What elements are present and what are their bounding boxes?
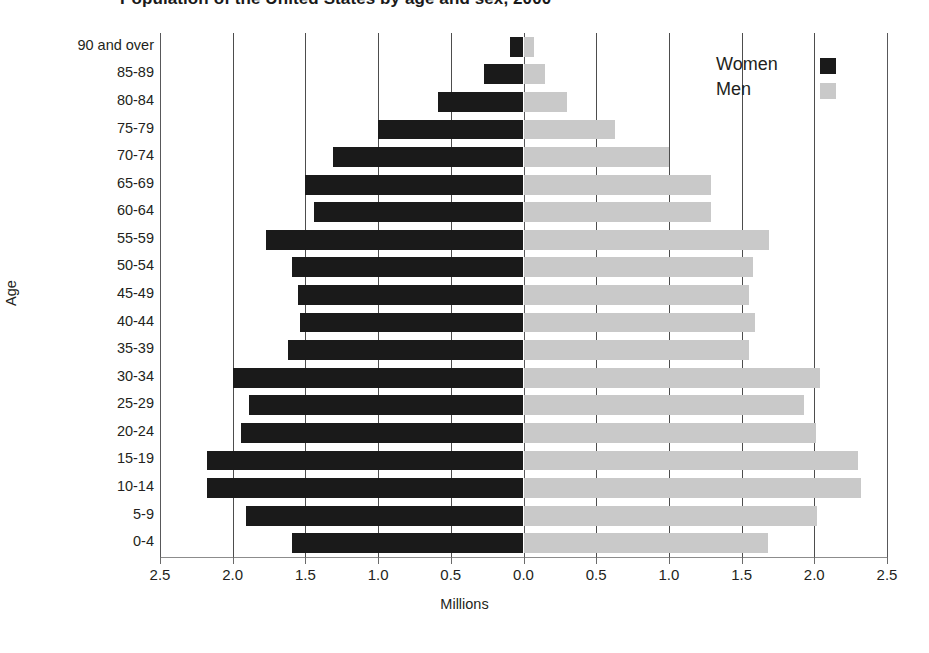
bar-men-50-54 (524, 257, 754, 277)
bar-men-80-84 (524, 92, 568, 112)
y-tick-label-55-59: 55-59 (4, 230, 154, 246)
y-axis-tick-labels: 90 and over85-8980-8475-7970-7465-6960-6… (0, 33, 154, 557)
y-tick-label-20-24: 20-24 (4, 423, 154, 439)
bar-men-10-14 (524, 478, 861, 498)
bar-women-60-64 (314, 202, 523, 222)
x-tick-mark (451, 557, 452, 564)
bar-men-60-64 (524, 202, 712, 222)
legend-item-men: Men (716, 79, 856, 104)
bar-women-45-49 (298, 285, 523, 305)
x-tick-mark (596, 557, 597, 564)
x-tick-mark (887, 557, 888, 564)
x-tick-label: 1.5 (275, 566, 335, 583)
bar-row (160, 285, 887, 305)
bar-row (160, 478, 887, 498)
bar-men-25-29 (524, 395, 805, 415)
bar-women-55-59 (266, 230, 523, 250)
legend-swatch-men (820, 83, 836, 99)
bar-women-50-54 (292, 257, 523, 277)
bar-men-65-69 (524, 175, 712, 195)
y-tick-label-0-4: 0-4 (4, 533, 154, 549)
bar-row (160, 395, 887, 415)
bar-women-20-24 (241, 423, 523, 443)
x-tick-mark (814, 557, 815, 564)
legend-swatch-women (820, 58, 836, 74)
x-tick-label: 0.5 (421, 566, 481, 583)
bar-women-30-34 (233, 368, 524, 388)
y-tick-label-35-39: 35-39 (4, 340, 154, 356)
x-tick-mark (669, 557, 670, 564)
bar-women-90-and-over (510, 37, 523, 57)
bar-row (160, 257, 887, 277)
x-tick-label: 1.5 (712, 566, 772, 583)
bar-row (160, 340, 887, 360)
x-tick-mark (742, 557, 743, 564)
bar-men-85-89 (524, 64, 546, 84)
y-tick-label-80-84: 80-84 (4, 92, 154, 108)
bar-men-0-4 (524, 533, 768, 553)
y-tick-label-40-44: 40-44 (4, 313, 154, 329)
y-tick-label-25-29: 25-29 (4, 395, 154, 411)
bar-row (160, 202, 887, 222)
y-tick-label-90-and-over: 90 and over (4, 37, 154, 53)
x-tick-mark (233, 557, 234, 564)
legend-label-men: Men (716, 79, 751, 100)
population-pyramid-figure: Population of the United States by age a… (0, 0, 929, 653)
y-tick-label-50-54: 50-54 (4, 257, 154, 273)
bar-women-0-4 (292, 533, 523, 553)
chart-title: Population of the United States by age a… (120, 0, 820, 7)
y-tick-label-60-64: 60-64 (4, 202, 154, 218)
bar-men-55-59 (524, 230, 770, 250)
bar-men-70-74 (524, 147, 669, 167)
y-tick-label-15-19: 15-19 (4, 450, 154, 466)
x-tick-mark (524, 557, 525, 564)
x-tick-mark (378, 557, 379, 564)
bar-row (160, 313, 887, 333)
bar-row (160, 506, 887, 526)
bar-women-80-84 (438, 92, 524, 112)
bar-women-35-39 (288, 340, 524, 360)
x-tick-label: 1.0 (639, 566, 699, 583)
x-tick-label: 2.5 (857, 566, 917, 583)
y-tick-label-5-9: 5-9 (4, 506, 154, 522)
bar-women-70-74 (333, 147, 523, 167)
chart-legend: Women Men (716, 54, 856, 104)
x-tick-mark (160, 557, 161, 564)
bar-men-90-and-over (524, 37, 534, 57)
x-tick-label: 2.5 (130, 566, 190, 583)
bar-women-25-29 (249, 395, 524, 415)
bar-men-40-44 (524, 313, 755, 333)
y-axis-title: Age (3, 263, 19, 323)
x-tick-label: 2.0 (203, 566, 263, 583)
bar-women-65-69 (305, 175, 523, 195)
x-tick-mark (305, 557, 306, 564)
bar-women-15-19 (207, 451, 524, 471)
bar-women-10-14 (207, 478, 524, 498)
y-tick-label-30-34: 30-34 (4, 368, 154, 384)
x-tick-label: 2.0 (784, 566, 844, 583)
gridline-2.5-right (887, 33, 888, 557)
bar-row (160, 368, 887, 388)
bar-men-5-9 (524, 506, 818, 526)
x-axis-title: Millions (0, 596, 929, 612)
bar-row (160, 423, 887, 443)
legend-label-women: Women (716, 54, 778, 75)
plot-area (160, 33, 887, 557)
bar-row (160, 533, 887, 553)
y-tick-label-65-69: 65-69 (4, 175, 154, 191)
y-tick-label-85-89: 85-89 (4, 64, 154, 80)
x-tick-label: 0.5 (566, 566, 626, 583)
bar-row (160, 451, 887, 471)
bar-men-20-24 (524, 423, 816, 443)
y-tick-label-45-49: 45-49 (4, 285, 154, 301)
x-axis-tick-labels: 2.52.01.51.00.50.00.51.01.52.02.5 (0, 566, 929, 592)
bar-women-75-79 (378, 120, 523, 140)
bar-men-45-49 (524, 285, 749, 305)
bar-women-40-44 (300, 313, 524, 333)
bar-men-75-79 (524, 120, 616, 140)
bar-row (160, 120, 887, 140)
bar-men-35-39 (524, 340, 749, 360)
y-tick-label-75-79: 75-79 (4, 120, 154, 136)
legend-item-women: Women (716, 54, 856, 79)
y-tick-label-10-14: 10-14 (4, 478, 154, 494)
